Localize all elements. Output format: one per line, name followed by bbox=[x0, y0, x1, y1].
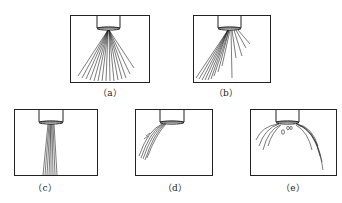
spray-lines bbox=[196, 30, 250, 80]
spray-lines bbox=[139, 124, 166, 160]
nozzle bbox=[97, 16, 120, 29]
nozzle bbox=[39, 110, 63, 123]
panel-c-label: （c） bbox=[33, 181, 56, 194]
spray-lines bbox=[256, 124, 323, 170]
panel-d-label: （d） bbox=[163, 181, 187, 194]
nozzle bbox=[160, 110, 184, 123]
chamber-box bbox=[251, 110, 337, 176]
nozzle bbox=[276, 110, 299, 123]
panel-a bbox=[71, 16, 150, 83]
chamber-box bbox=[15, 110, 98, 176]
panel-c bbox=[15, 110, 98, 176]
panel-e bbox=[251, 110, 337, 176]
panel-b bbox=[194, 16, 271, 83]
spray-patterns-diagram bbox=[0, 0, 342, 203]
panel-a-label: （a） bbox=[98, 86, 121, 99]
panel-e-label: （e） bbox=[281, 181, 304, 194]
spray-lines bbox=[78, 30, 134, 81]
nozzle bbox=[218, 16, 241, 29]
spray-lines bbox=[43, 124, 57, 175]
panel-b-label: （b） bbox=[214, 86, 238, 99]
droplets bbox=[282, 126, 293, 134]
panel-d bbox=[136, 110, 213, 176]
